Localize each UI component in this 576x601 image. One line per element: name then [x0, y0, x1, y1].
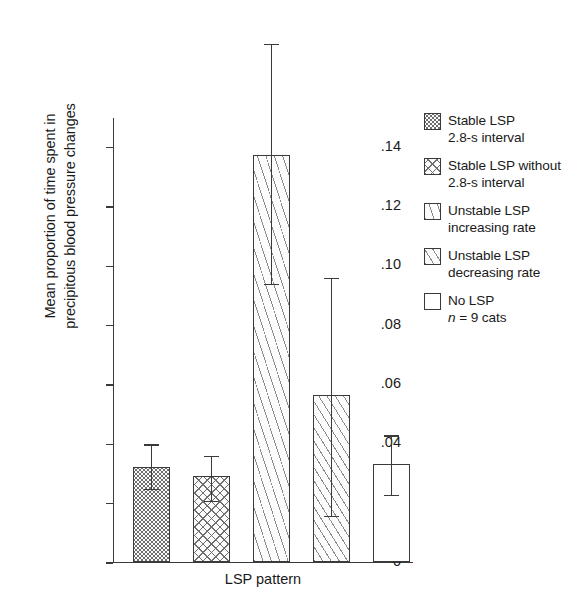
legend-label: No LSPn = 9 cats — [448, 292, 506, 326]
legend-label: Unstable LSPincreasing rate — [448, 202, 536, 236]
error-bar-cap-upper — [324, 278, 339, 279]
legend-label: Stable LSP2.8-s interval — [448, 112, 524, 146]
error-bar-cap-upper — [204, 456, 219, 457]
legend-item: Stable LSP2.8-s interval — [424, 112, 574, 146]
legend-label-line1: No LSP — [448, 292, 506, 309]
plot-area: .14.12.10.08.06.04.020 — [113, 118, 413, 563]
legend-swatch-cross-hatch — [424, 158, 441, 175]
error-bar-cap-lower — [384, 495, 399, 496]
legend-label-line2: decreasing rate — [448, 264, 540, 281]
legend-item: Unstable LSPincreasing rate — [424, 202, 574, 236]
y-tick-label: .06 — [355, 375, 401, 391]
legend-label: Stable LSP without2.8-s interval — [448, 157, 561, 191]
legend-label-line2: 2.8-s interval — [448, 174, 561, 191]
y-tick-label: .10 — [355, 256, 401, 272]
y-tick-mark — [106, 266, 113, 267]
error-bar-cap-upper — [384, 435, 399, 436]
legend-label-line2: increasing rate — [448, 219, 536, 236]
y-tick-mark — [106, 325, 113, 326]
error-bar-line — [331, 278, 332, 515]
error-bar-line — [151, 444, 152, 489]
y-axis-title: Mean proportion of time spent in precipi… — [40, 6, 80, 426]
legend-label: Unstable LSPdecreasing rate — [448, 247, 540, 281]
error-bar-cap-upper — [144, 444, 159, 445]
legend-swatch-diagonal-steep — [424, 203, 441, 220]
error-bar-cap-lower — [144, 489, 159, 490]
legend-item: Stable LSP without2.8-s interval — [424, 157, 574, 191]
x-axis-title: LSP pattern — [113, 571, 413, 587]
legend-swatch-diagonal-shallow — [424, 248, 441, 265]
legend-label-line2: n = 9 cats — [448, 309, 506, 326]
error-bar-cap-lower — [324, 516, 339, 517]
error-bar-line — [211, 456, 212, 501]
legend-label-line1: Stable LSP without — [448, 157, 561, 174]
y-tick-label: .04 — [355, 434, 401, 450]
y-tick-mark — [106, 206, 113, 207]
error-bar-cap-lower — [264, 284, 279, 285]
y-tick-label: .12 — [355, 197, 401, 213]
legend-label-line1: Unstable LSP — [448, 202, 536, 219]
legend-swatch-none — [424, 293, 441, 310]
error-bar-cap-upper — [264, 44, 279, 45]
legend-label-line1: Unstable LSP — [448, 247, 540, 264]
y-tick-mark — [106, 562, 113, 563]
error-bar-line — [391, 435, 392, 494]
y-tick-mark — [106, 384, 113, 385]
chart-legend: Stable LSP2.8-s intervalStable LSP witho… — [424, 112, 574, 337]
legend-item: Unstable LSPdecreasing rate — [424, 247, 574, 281]
y-tick-mark — [106, 147, 113, 148]
error-bar-line — [271, 44, 272, 284]
y-tick-label: .14 — [355, 138, 401, 154]
legend-item: No LSPn = 9 cats — [424, 292, 574, 326]
legend-label-line1: Stable LSP — [448, 112, 524, 129]
legend-swatch-dots — [424, 113, 441, 130]
legend-label-line2: 2.8-s interval — [448, 129, 524, 146]
y-tick-label: .08 — [355, 316, 401, 332]
y-tick-mark — [106, 444, 113, 445]
y-tick-mark — [106, 503, 113, 504]
y-axis-line — [113, 118, 114, 563]
error-bar-cap-lower — [204, 501, 219, 502]
bar-chart-figure: Mean proportion of time spent in precipi… — [0, 0, 576, 601]
